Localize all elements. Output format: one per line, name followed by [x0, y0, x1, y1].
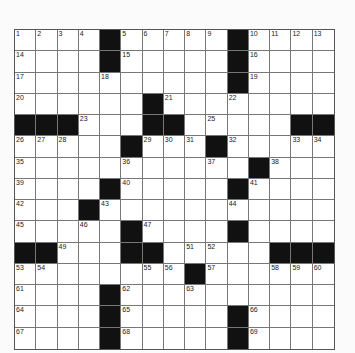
grid-cell[interactable]	[164, 221, 185, 242]
grid-cell[interactable]: 44	[228, 200, 249, 221]
grid-cell[interactable]	[79, 158, 100, 179]
grid-cell[interactable]: 69	[249, 328, 270, 349]
grid-cell[interactable]	[58, 73, 79, 94]
grid-cell[interactable]	[313, 221, 334, 242]
grid-cell[interactable]	[249, 285, 270, 306]
grid-cell[interactable]	[185, 200, 206, 221]
grid-cell[interactable]	[185, 221, 206, 242]
grid-cell[interactable]: 43	[100, 200, 121, 221]
grid-cell[interactable]	[79, 328, 100, 349]
grid-cell[interactable]: 66	[249, 306, 270, 327]
grid-cell[interactable]	[79, 264, 100, 285]
grid-cell[interactable]: 68	[121, 328, 142, 349]
grid-cell[interactable]	[58, 285, 79, 306]
grid-cell[interactable]	[36, 328, 57, 349]
grid-cell[interactable]	[58, 94, 79, 115]
grid-cell[interactable]	[249, 115, 270, 136]
grid-cell[interactable]: 11	[270, 30, 291, 51]
grid-cell[interactable]	[58, 221, 79, 242]
grid-cell[interactable]	[100, 158, 121, 179]
grid-cell[interactable]	[79, 306, 100, 327]
grid-cell[interactable]: 51	[185, 243, 206, 264]
grid-cell[interactable]: 34	[313, 136, 334, 157]
grid-cell[interactable]: 17	[15, 73, 36, 94]
grid-cell[interactable]	[36, 285, 57, 306]
grid-cell[interactable]: 10	[249, 30, 270, 51]
grid-cell[interactable]	[228, 115, 249, 136]
grid-cell[interactable]	[313, 51, 334, 72]
grid-cell[interactable]: 12	[291, 30, 312, 51]
grid-cell[interactable]	[228, 158, 249, 179]
grid-cell[interactable]	[164, 200, 185, 221]
grid-cell[interactable]: 45	[15, 221, 36, 242]
grid-cell[interactable]: 40	[121, 179, 142, 200]
grid-cell[interactable]: 6	[143, 30, 164, 51]
grid-cell[interactable]: 25	[206, 115, 227, 136]
grid-cell[interactable]	[291, 51, 312, 72]
grid-cell[interactable]	[121, 115, 142, 136]
grid-cell[interactable]	[164, 179, 185, 200]
grid-cell[interactable]	[164, 243, 185, 264]
grid-cell[interactable]	[143, 179, 164, 200]
grid-cell[interactable]	[291, 328, 312, 349]
grid-cell[interactable]: 65	[121, 306, 142, 327]
grid-cell[interactable]	[206, 221, 227, 242]
grid-cell[interactable]	[121, 73, 142, 94]
grid-cell[interactable]	[185, 158, 206, 179]
grid-cell[interactable]	[36, 306, 57, 327]
grid-cell[interactable]: 1	[15, 30, 36, 51]
grid-cell[interactable]: 42	[15, 200, 36, 221]
grid-cell[interactable]: 46	[79, 221, 100, 242]
grid-cell[interactable]	[143, 200, 164, 221]
grid-cell[interactable]: 57	[206, 264, 227, 285]
grid-cell[interactable]: 53	[15, 264, 36, 285]
grid-cell[interactable]: 59	[291, 264, 312, 285]
grid-cell[interactable]	[143, 285, 164, 306]
grid-cell[interactable]	[313, 306, 334, 327]
grid-cell[interactable]	[58, 179, 79, 200]
grid-cell[interactable]: 9	[206, 30, 227, 51]
grid-cell[interactable]	[100, 243, 121, 264]
grid-cell[interactable]	[164, 306, 185, 327]
grid-cell[interactable]	[206, 179, 227, 200]
grid-cell[interactable]: 29	[143, 136, 164, 157]
grid-cell[interactable]	[228, 243, 249, 264]
grid-cell[interactable]	[228, 285, 249, 306]
grid-cell[interactable]: 7	[164, 30, 185, 51]
grid-cell[interactable]	[313, 328, 334, 349]
grid-cell[interactable]: 31	[185, 136, 206, 157]
grid-cell[interactable]	[313, 200, 334, 221]
grid-cell[interactable]	[100, 221, 121, 242]
grid-cell[interactable]	[164, 285, 185, 306]
grid-cell[interactable]: 16	[249, 51, 270, 72]
grid-cell[interactable]	[164, 51, 185, 72]
grid-cell[interactable]	[313, 73, 334, 94]
grid-cell[interactable]	[270, 94, 291, 115]
grid-cell[interactable]: 67	[15, 328, 36, 349]
grid-cell[interactable]: 27	[36, 136, 57, 157]
grid-cell[interactable]	[143, 306, 164, 327]
grid-cell[interactable]: 23	[79, 115, 100, 136]
grid-cell[interactable]	[100, 264, 121, 285]
grid-cell[interactable]	[270, 200, 291, 221]
grid-cell[interactable]	[79, 94, 100, 115]
grid-cell[interactable]	[270, 51, 291, 72]
grid-cell[interactable]	[291, 94, 312, 115]
grid-cell[interactable]	[313, 179, 334, 200]
grid-cell[interactable]: 41	[249, 179, 270, 200]
grid-cell[interactable]	[164, 73, 185, 94]
grid-cell[interactable]: 39	[15, 179, 36, 200]
grid-cell[interactable]: 4	[79, 30, 100, 51]
grid-cell[interactable]: 32	[228, 136, 249, 157]
grid-cell[interactable]	[291, 200, 312, 221]
grid-cell[interactable]	[100, 136, 121, 157]
grid-cell[interactable]	[249, 264, 270, 285]
grid-cell[interactable]	[185, 51, 206, 72]
grid-cell[interactable]	[206, 51, 227, 72]
grid-cell[interactable]: 49	[58, 243, 79, 264]
grid-cell[interactable]	[270, 221, 291, 242]
grid-cell[interactable]: 37	[206, 158, 227, 179]
grid-cell[interactable]	[249, 94, 270, 115]
grid-cell[interactable]: 26	[15, 136, 36, 157]
grid-cell[interactable]	[79, 179, 100, 200]
